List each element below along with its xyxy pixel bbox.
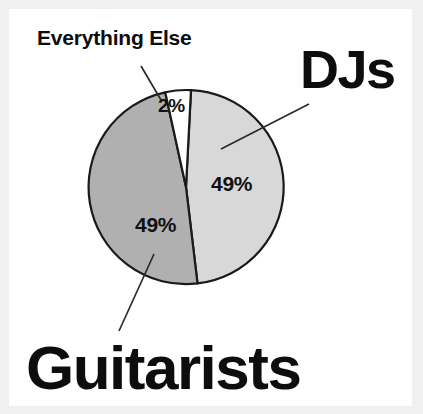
slice-value-djs: 49% — [211, 173, 252, 194]
slice-label-djs: DJs — [300, 42, 395, 96]
slice-label-everything-else: Everything Else — [37, 27, 192, 48]
chart-image: Everything Else DJs Guitarists 2% 49% 49… — [0, 0, 423, 414]
pie-chart: Everything Else DJs Guitarists 2% 49% 49… — [0, 0, 423, 414]
slice-label-guitarists: Guitarists — [26, 337, 300, 399]
slice-value-guitarists: 49% — [135, 214, 176, 235]
slice-value-everything-else: 2% — [158, 96, 185, 115]
